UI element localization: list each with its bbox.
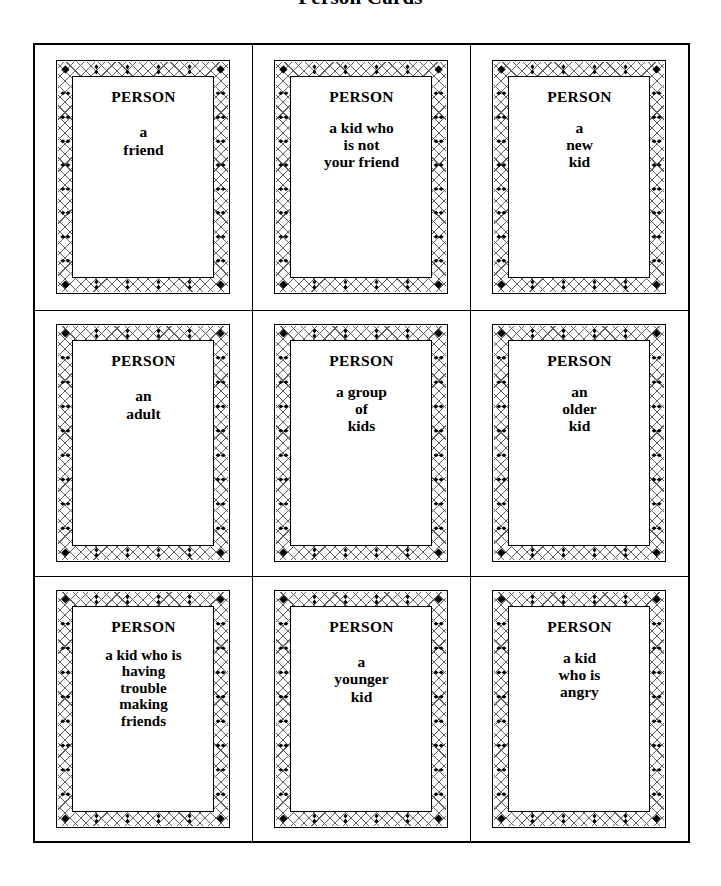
cards-cell: PERSON an older kid — [470, 310, 689, 576]
cards-row: PERSON a kid who is having trouble makin… — [34, 576, 689, 842]
card-body: a kid who is angry — [559, 649, 601, 700]
person-card[interactable]: PERSON an adult — [56, 324, 230, 562]
cards-cell: PERSON a kid who is not your friend — [252, 44, 470, 310]
cards-cell: PERSON an adult — [34, 310, 252, 576]
cards-cell: PERSON a kid who is angry — [470, 576, 689, 842]
card-inner-box: PERSON a friend — [72, 76, 214, 278]
cards-cell: PERSON a kid who is having trouble makin… — [34, 576, 252, 842]
card-heading: PERSON — [329, 618, 394, 636]
person-card[interactable]: PERSON a group of kids — [274, 324, 448, 562]
person-card[interactable]: PERSON a friend — [56, 60, 230, 294]
cards-cell: PERSON a younger kid — [252, 576, 470, 842]
card-heading: PERSON — [111, 352, 176, 370]
card-inner-box: PERSON a group of kids — [290, 340, 432, 546]
card-body: a younger kid — [334, 653, 388, 706]
card-heading: PERSON — [547, 88, 612, 106]
person-card[interactable]: PERSON a kid who is having trouble makin… — [56, 590, 230, 828]
card-heading: PERSON — [547, 618, 612, 636]
person-card[interactable]: PERSON a kid who is angry — [492, 590, 666, 828]
card-inner-box: PERSON a new kid — [508, 76, 650, 278]
cards-row: PERSON a friend PERSON a kid who is not … — [34, 44, 689, 310]
card-heading: PERSON — [547, 352, 612, 370]
person-card[interactable]: PERSON a kid who is not your friend — [274, 60, 448, 294]
card-inner-box: PERSON a kid who is having trouble makin… — [72, 606, 214, 812]
card-body: a friend — [123, 123, 163, 158]
card-inner-box: PERSON a younger kid — [290, 606, 432, 812]
card-body: a kid who is not your friend — [324, 119, 399, 170]
cards-row: PERSON an adult PERSON a group of kids — [34, 310, 689, 576]
card-heading: PERSON — [111, 618, 176, 636]
card-inner-box: PERSON an older kid — [508, 340, 650, 546]
person-card[interactable]: PERSON a younger kid — [274, 590, 448, 828]
page-title: Person Cards — [0, 0, 721, 8]
cards-cell: PERSON a new kid — [470, 44, 689, 310]
card-inner-box: PERSON an adult — [72, 340, 214, 546]
person-card[interactable]: PERSON an older kid — [492, 324, 666, 562]
card-body: a new kid — [566, 119, 593, 170]
card-body: an older kid — [562, 383, 596, 434]
card-heading: PERSON — [329, 88, 394, 106]
card-body: a kid who is having trouble making frien… — [105, 647, 181, 730]
card-body: an adult — [126, 387, 160, 422]
card-inner-box: PERSON a kid who is not your friend — [290, 76, 432, 278]
cards-cell: PERSON a friend — [34, 44, 252, 310]
cards-cell: PERSON a group of kids — [252, 310, 470, 576]
person-card[interactable]: PERSON a new kid — [492, 60, 666, 294]
card-body: a group of kids — [336, 383, 387, 434]
card-heading: PERSON — [111, 88, 176, 106]
card-inner-box: PERSON a kid who is angry — [508, 606, 650, 812]
cards-grid: PERSON a friend PERSON a kid who is not … — [33, 43, 690, 843]
card-heading: PERSON — [329, 352, 394, 370]
